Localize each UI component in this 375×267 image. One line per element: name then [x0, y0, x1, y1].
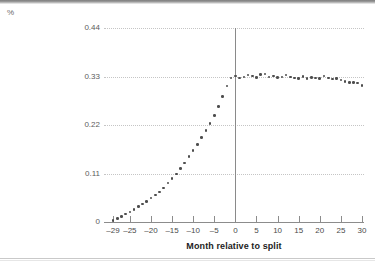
data-point — [188, 155, 191, 158]
y-axis-tick: 0.44 — [70, 24, 100, 32]
x-axis-tick-label: 30 — [350, 226, 374, 235]
data-point — [255, 76, 258, 79]
y-axis-tick-label: 0.33 — [74, 73, 100, 81]
data-point — [124, 213, 127, 216]
data-point — [289, 76, 292, 79]
data-point — [276, 76, 279, 79]
x-axis-tick — [172, 216, 173, 222]
x-axis-tick — [151, 216, 152, 222]
data-point — [158, 191, 161, 194]
chart-plot-area: 00.110.220.330.44–29–25–20–15–10–5051015… — [0, 0, 375, 267]
data-point — [183, 162, 186, 165]
x-axis-title: Month relative to split — [104, 241, 364, 251]
data-point — [162, 187, 165, 190]
data-point — [327, 77, 330, 80]
data-point — [361, 84, 364, 87]
data-point — [238, 77, 241, 80]
bottom-divider-line — [0, 258, 375, 259]
data-point — [348, 81, 351, 84]
data-point — [116, 217, 119, 220]
data-point — [331, 78, 334, 81]
data-point — [150, 197, 153, 200]
y-gridline — [104, 125, 364, 126]
data-point — [221, 95, 224, 98]
x-axis-tick — [256, 216, 257, 222]
data-point — [167, 182, 170, 185]
data-point — [154, 194, 157, 197]
data-point — [141, 203, 144, 206]
y-axis-tick-label: 0.44 — [74, 24, 100, 32]
x-axis-tick — [362, 216, 363, 222]
data-point — [196, 143, 199, 146]
data-point — [272, 75, 275, 78]
data-point — [120, 215, 123, 218]
data-point — [213, 114, 216, 117]
bottom-divider-line-secondary — [0, 260, 375, 261]
x-axis-tick — [193, 216, 194, 222]
y-axis-tick: 0 — [70, 218, 100, 226]
split-reference-line — [235, 28, 236, 222]
x-axis-tick — [299, 216, 300, 222]
data-point — [200, 136, 203, 139]
data-point — [335, 77, 338, 80]
y-axis-tick: 0.22 — [70, 121, 100, 129]
data-point — [302, 75, 305, 78]
y-axis-tick-label: 0.11 — [74, 170, 100, 178]
data-point — [281, 76, 284, 79]
data-point — [179, 167, 182, 170]
y-axis-tick: 0.33 — [70, 73, 100, 81]
x-axis-tick — [320, 216, 321, 222]
data-point — [356, 82, 359, 85]
data-point — [243, 76, 246, 79]
data-point — [112, 219, 115, 222]
x-axis-tick — [214, 216, 215, 222]
data-point — [205, 129, 208, 132]
data-point — [129, 211, 132, 214]
data-point — [226, 85, 229, 88]
data-point — [314, 77, 317, 80]
data-point — [171, 177, 174, 180]
data-point — [264, 73, 267, 76]
data-point — [137, 205, 140, 208]
data-point — [145, 200, 148, 203]
data-point — [344, 80, 347, 83]
x-axis-line — [104, 222, 364, 223]
x-axis-tick — [130, 216, 131, 222]
data-point — [318, 77, 321, 80]
data-point — [133, 208, 136, 211]
y-axis-tick: 0.11 — [70, 170, 100, 178]
data-point — [175, 173, 178, 176]
y-gridline — [104, 28, 364, 29]
data-point — [340, 79, 343, 82]
x-axis-tick — [341, 216, 342, 222]
y-axis-tick-label: 0 — [74, 218, 100, 226]
data-point — [192, 149, 195, 152]
y-axis-tick-label: 0.22 — [74, 121, 100, 129]
data-point — [251, 75, 254, 78]
x-axis-tick — [278, 216, 279, 222]
data-point — [293, 77, 296, 80]
data-point — [297, 77, 300, 80]
data-point — [352, 81, 355, 84]
y-gridline — [104, 174, 364, 175]
data-point — [217, 105, 220, 108]
data-point — [310, 76, 313, 79]
